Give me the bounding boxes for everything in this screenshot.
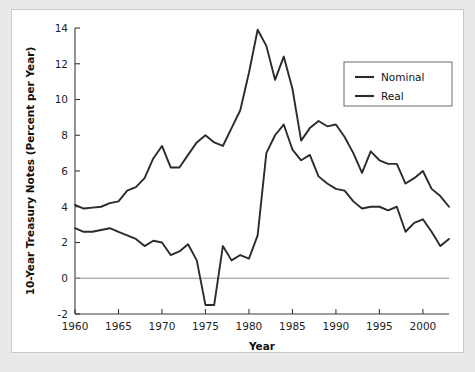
x-tick-label: 1985	[279, 320, 306, 332]
y-tick-label: 0	[61, 272, 68, 284]
y-axis-ticks	[75, 28, 80, 314]
x-axis: 196019651970197519801985199019952000	[62, 309, 449, 332]
x-tick-label: 1970	[149, 320, 176, 332]
x-tick-label: 1990	[323, 320, 350, 332]
y-tick-label: 12	[55, 58, 68, 70]
x-tick-label: 1975	[192, 320, 219, 332]
y-tick-label: 10	[55, 93, 68, 105]
figure-card: -202468101214 19601965197019751980198519…	[11, 9, 464, 353]
x-tick-label: 1995	[366, 320, 393, 332]
treasury-notes-line-chart: -202468101214 19601965197019751980198519…	[12, 10, 465, 354]
chart-canvas: -202468101214 19601965197019751980198519…	[12, 10, 463, 352]
y-tick-label: 14	[55, 22, 69, 34]
x-tick-label: 1965	[105, 320, 132, 332]
x-tick-label: 2000	[410, 320, 437, 332]
x-tick-label: 1980	[236, 320, 263, 332]
x-axis-tick-labels: 196019651970197519801985199019952000	[62, 320, 437, 332]
x-axis-title: Year	[248, 340, 276, 352]
y-tick-label: 2	[61, 236, 68, 248]
x-axis-ticks	[75, 309, 423, 314]
y-axis-tick-labels: -202468101214	[55, 22, 69, 320]
y-axis: -202468101214	[55, 22, 80, 320]
x-tick-label: 1960	[62, 320, 89, 332]
legend-label-nominal: Nominal	[381, 71, 424, 83]
series-line-nominal	[75, 30, 449, 209]
y-tick-label: 6	[61, 165, 68, 177]
y-tick-label: 8	[61, 129, 68, 141]
y-tick-label: 4	[61, 201, 68, 213]
chart-legend: NominalReal	[344, 62, 452, 106]
legend-label-real: Real	[381, 90, 404, 102]
y-axis-title: 10-Year Treasury Notes (Percent per Year…	[24, 47, 36, 296]
y-tick-label: -2	[58, 308, 68, 320]
